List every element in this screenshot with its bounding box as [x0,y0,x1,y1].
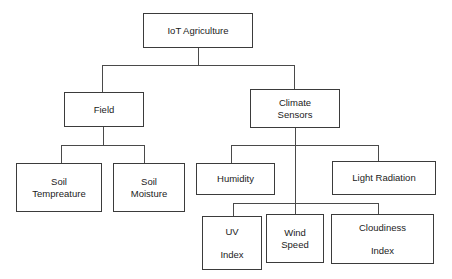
node-label-line: Wind [284,227,306,239]
node-label-line: Tempreature [32,188,85,200]
node-soil-tempreature[interactable]: SoilTempreature [16,163,102,212]
node-humidity[interactable]: Humidity [196,163,275,195]
node-root[interactable]: IoT Agriculture [143,13,253,48]
node-label-line: Speed [281,239,308,251]
node-label-line: Climate [279,97,311,109]
node-label-line: Soil [141,176,157,188]
node-label-line: Index [371,245,394,257]
node-label-line: Light Radiation [352,172,415,184]
node-label-line: Sensors [278,109,313,121]
node-label-line: UV [225,226,238,238]
node-label-line: Cloudiness [359,222,406,234]
node-label-line: Moisture [131,188,167,200]
node-label-line: Index [220,249,243,261]
node-label-line: Humidity [217,173,254,185]
node-soil-moisture[interactable]: SoilMoisture [113,163,185,212]
node-cloudiness-index[interactable]: CloudinessIndex [331,214,434,264]
node-field[interactable]: Field [64,92,144,127]
node-label-line: Field [94,104,115,116]
node-light-radiation[interactable]: Light Radiation [332,161,436,195]
diagram-canvas: IoT AgricultureFieldClimateSensorsSoilTe… [0,0,452,279]
node-label-line: Soil [51,176,67,188]
node-wind-speed[interactable]: WindSpeed [266,214,324,263]
node-label-line: IoT Agriculture [167,25,228,37]
node-uv-index[interactable]: UVIndex [202,216,262,270]
node-climate-sensors[interactable]: ClimateSensors [250,89,340,128]
